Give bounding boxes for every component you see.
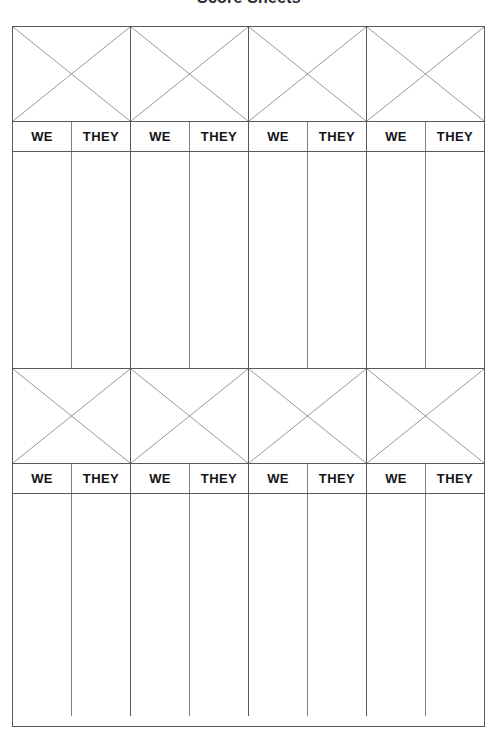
diagonal-cross-cell (248, 27, 366, 121)
cross-icon (13, 369, 130, 463)
score-entry-cell[interactable] (71, 494, 130, 716)
column-label-they: THEY (425, 464, 484, 493)
column-label-they: THEY (71, 464, 130, 493)
column-label-we: WE (13, 464, 71, 493)
cross-icon (13, 27, 130, 121)
cross-icon (367, 369, 484, 463)
score-sheet-page: Score Sheets (0, 0, 498, 737)
score-entry-cell[interactable] (307, 152, 366, 368)
score-entry-cell[interactable] (71, 152, 130, 368)
page-title-clip: Score Sheets (0, 0, 498, 10)
column-label-they: THEY (71, 122, 130, 151)
column-label-we: WE (248, 464, 307, 493)
column-label-we: WE (130, 122, 189, 151)
score-entry-cell[interactable] (130, 494, 189, 716)
diagonal-cross-cell (366, 369, 484, 463)
score-entry-cell[interactable] (13, 152, 71, 368)
score-entry-cell[interactable] (425, 152, 484, 368)
diagonal-header-row (13, 369, 484, 463)
column-label-we: WE (130, 464, 189, 493)
column-label-we: WE (248, 122, 307, 151)
score-sheet-table: WE THEY WE THEY WE THEY WE THEY (12, 26, 485, 727)
cross-icon (367, 27, 484, 121)
score-entry-cell[interactable] (366, 152, 425, 368)
cross-icon (249, 369, 366, 463)
score-entry-cell[interactable] (366, 494, 425, 716)
score-entry-cell[interactable] (189, 494, 248, 716)
cross-icon (131, 27, 248, 121)
score-entry-cell[interactable] (130, 152, 189, 368)
score-entry-cell[interactable] (248, 494, 307, 716)
diagonal-cross-cell (13, 369, 130, 463)
score-entry-cell[interactable] (307, 494, 366, 716)
score-block-2: WE THEY WE THEY WE THEY WE THEY (13, 368, 484, 716)
diagonal-cross-cell (130, 27, 248, 121)
column-label-they: THEY (189, 464, 248, 493)
score-entry-cell[interactable] (248, 152, 307, 368)
column-label-we: WE (13, 122, 71, 151)
diagonal-cross-cell (366, 27, 484, 121)
score-entry-row (13, 152, 484, 368)
score-entry-cell[interactable] (189, 152, 248, 368)
page-title: Score Sheets (0, 0, 498, 7)
diagonal-cross-cell (13, 27, 130, 121)
column-label-they: THEY (307, 464, 366, 493)
column-label-they: THEY (307, 122, 366, 151)
column-label-row: WE THEY WE THEY WE THEY WE THEY (13, 121, 484, 152)
diagonal-cross-cell (130, 369, 248, 463)
column-label-row: WE THEY WE THEY WE THEY WE THEY (13, 463, 484, 494)
column-label-they: THEY (189, 122, 248, 151)
score-entry-cell[interactable] (425, 494, 484, 716)
score-entry-cell[interactable] (13, 494, 71, 716)
score-entry-row (13, 494, 484, 716)
cross-icon (131, 369, 248, 463)
score-block-1: WE THEY WE THEY WE THEY WE THEY (13, 27, 484, 368)
column-label-we: WE (366, 122, 425, 151)
cross-icon (249, 27, 366, 121)
diagonal-cross-cell (248, 369, 366, 463)
diagonal-header-row (13, 27, 484, 121)
column-label-we: WE (366, 464, 425, 493)
column-label-they: THEY (425, 122, 484, 151)
